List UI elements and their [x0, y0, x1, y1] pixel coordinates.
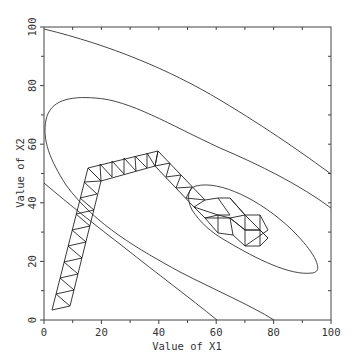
svg-text:100: 100: [26, 18, 38, 37]
svg-text:60: 60: [210, 326, 223, 338]
y-axis-ticks: [40, 27, 331, 320]
contour-outer: [44, 29, 331, 174]
svg-text:20: 20: [95, 326, 108, 338]
svg-text:80: 80: [267, 326, 280, 338]
svg-text:60: 60: [26, 138, 38, 151]
x-axis-ticks: [44, 27, 331, 324]
svg-text:0: 0: [41, 326, 47, 338]
y-tick-labels: 0 20 40 60 80 100: [26, 18, 38, 324]
contour-middle: [45, 98, 331, 320]
svg-text:40: 40: [26, 196, 38, 209]
svg-text:80: 80: [26, 79, 38, 92]
x-tick-labels: 0 20 40 60 80 100: [41, 326, 341, 338]
svg-text:40: 40: [152, 326, 165, 338]
svg-text:100: 100: [322, 326, 341, 338]
y-axis-title: Value of X2: [14, 138, 26, 208]
svg-text:20: 20: [26, 255, 38, 268]
svg-text:0: 0: [26, 317, 38, 323]
contour-inner-ellipse: [189, 185, 318, 273]
simplex-path: [52, 151, 268, 310]
contour-plot: 0 20 40 60 80 100 0 20 40 60 80 100 Valu…: [0, 0, 357, 360]
x-axis-title: Value of X1: [152, 340, 222, 352]
